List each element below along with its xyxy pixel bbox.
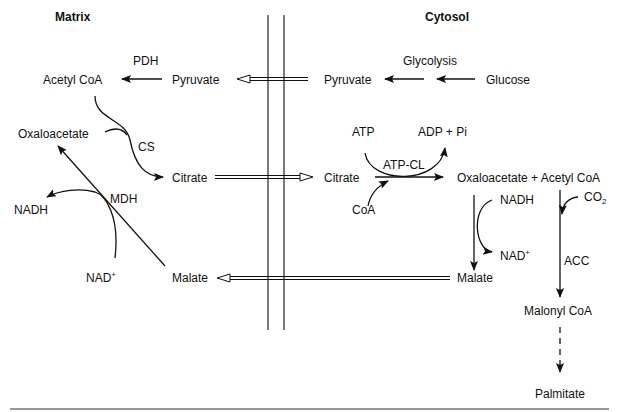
pdh-label: PDH [133,54,158,68]
cs-label: CS [138,140,155,154]
mitochondrial-membrane [268,15,284,330]
glycolysis-label: Glycolysis [403,54,457,68]
palmitate: Palmitate [535,387,585,401]
nadh-nad-curve [477,200,492,252]
oaa-acetyl-coa: Oxaloacetate + Acetyl CoA [457,171,600,185]
acc-label: ACC [564,254,589,268]
matrix-nadh: NADH [14,203,48,217]
matrix-acetyl-coa: Acetyl CoA [43,73,102,87]
co2-curve [562,197,578,214]
nad-nadh-curve [47,190,116,258]
oaa-join-curve [105,129,127,135]
cytosol-pyruvate: Pyruvate [324,73,371,87]
matrix-oxaloacetate: Oxaloacetate [18,127,89,141]
adp-pi-label: ADP + Pi [418,125,467,139]
coa-label: CoA [352,203,375,217]
matrix-malate: Malate [172,271,208,285]
cytosol-nadh: NADH [500,193,534,207]
cytosol-malate: Malate [457,271,493,285]
citrate-transport-arrow [215,173,313,181]
cytosol-header: Cytosol [425,10,469,24]
mdh-arrow [58,146,165,266]
cytosol-glucose: Glucose [486,73,530,87]
malonyl-coa: Malonyl CoA [524,304,592,318]
atp-label: ATP [352,125,374,139]
atp-cl-label: ATP-CL [383,158,425,172]
malate-transport-arrow [217,274,450,282]
matrix-nad-plus: NAD+ [86,268,116,285]
cs-curve [95,96,163,177]
matrix-header: Matrix [55,10,90,24]
matrix-pyruvate: Pyruvate [172,73,219,87]
cytosol-citrate: Citrate [324,171,359,185]
co2-label: CO2 [584,190,606,209]
cytosol-nad-plus: NAD+ [500,246,530,263]
matrix-citrate: Citrate [172,171,207,185]
pyruvate-transport-arrow [237,75,308,83]
mdh-label: MDH [110,192,137,206]
